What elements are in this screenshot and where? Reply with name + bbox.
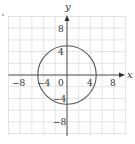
y-tick-label: −8: [53, 117, 67, 127]
bullet-mark: [2, 14, 4, 16]
x-axis-arrow-icon: [119, 73, 125, 78]
origin-label: 0: [58, 78, 64, 88]
y-tick-label: −4: [53, 94, 67, 104]
y-tick-label: 4: [58, 47, 64, 57]
x-tick-label: 8: [110, 78, 116, 88]
x-tick-label: −4: [37, 78, 51, 88]
coordinate-plot: y x −8 −4 0 4 8 8 4 −4 −8: [0, 0, 135, 144]
y-tick-label: 8: [58, 24, 64, 34]
y-axis-label: y: [64, 1, 71, 12]
x-tick-label: 4: [87, 78, 93, 88]
x-tick-label: −8: [12, 78, 26, 88]
x-axis-label: x: [127, 69, 133, 80]
y-axis-arrow-icon: [65, 15, 70, 21]
